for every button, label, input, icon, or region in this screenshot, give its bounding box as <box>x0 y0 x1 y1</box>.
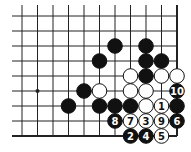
black-stone <box>92 99 107 114</box>
white-stone: 5 <box>154 129 169 144</box>
black-stone <box>139 54 154 69</box>
black-stone: 6 <box>170 114 185 129</box>
move-number: 1 <box>158 101 165 112</box>
black-stone <box>139 39 154 54</box>
move-number: 2 <box>127 131 134 142</box>
white-stone <box>139 99 154 114</box>
black-stone: 4 <box>139 129 154 144</box>
white-stone: 1 <box>154 99 169 114</box>
black-stone: 8 <box>108 114 123 129</box>
move-number: 7 <box>127 116 134 127</box>
black-stone <box>92 54 107 69</box>
black-stone <box>123 99 138 114</box>
white-stone: 3 <box>139 114 154 129</box>
black-stone: 2 <box>123 129 138 144</box>
move-number: 8 <box>112 116 119 127</box>
move-number: 6 <box>174 116 181 127</box>
white-stone <box>154 69 169 84</box>
white-stone <box>123 69 138 84</box>
black-stone <box>108 99 123 114</box>
black-stone <box>154 54 169 69</box>
white-stone <box>139 84 154 99</box>
star-points <box>36 89 40 93</box>
black-stone: 10 <box>170 84 185 99</box>
white-stone: 9 <box>154 114 169 129</box>
black-stone <box>170 99 185 114</box>
move-number: 3 <box>143 116 150 127</box>
white-stone: 7 <box>123 114 138 129</box>
go-board: 10187396245 <box>0 0 191 152</box>
move-number: 9 <box>158 116 165 127</box>
white-stone <box>170 69 185 84</box>
black-stone <box>108 39 123 54</box>
star-point <box>36 89 40 93</box>
move-number: 5 <box>158 131 165 142</box>
move-number: 10 <box>170 86 184 97</box>
white-stone <box>92 84 107 99</box>
black-stone <box>77 84 92 99</box>
black-stone <box>61 99 76 114</box>
black-stone <box>139 69 154 84</box>
white-stone <box>123 84 138 99</box>
move-number: 4 <box>143 131 150 142</box>
